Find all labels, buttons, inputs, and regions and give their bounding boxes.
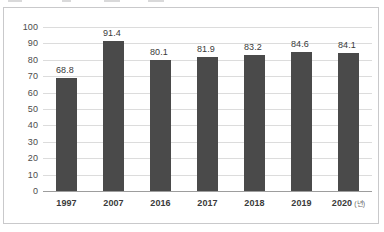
y-axis-tick-label: 20 [28, 153, 38, 163]
x-axis-tick-label: 2017 [184, 198, 231, 208]
x-axis-tick-label-text: 2019 [291, 198, 311, 208]
bar-slot: 84.1 [325, 27, 372, 191]
x-axis-tick-label-text: 2020 [332, 198, 352, 208]
bar-value-label: 84.1 [338, 40, 356, 50]
bar[interactable]: 83.2 [244, 55, 265, 191]
x-axis-tick-label: 1997 [43, 198, 90, 208]
x-axis-category-labels: 1997200720162017201820192020 (년) [43, 198, 372, 216]
bar[interactable]: 68.8 [56, 78, 77, 191]
x-axis-tick-label-text: 1997 [56, 198, 76, 208]
y-axis-tick-labels: 1009080706050403020100 [12, 27, 38, 191]
bar-value-label: 91.4 [103, 28, 121, 38]
y-axis-tick-label: 40 [28, 120, 38, 130]
x-axis-unit-suffix: (년) [352, 200, 365, 207]
x-axis-tick-label: 2016 [137, 198, 184, 208]
x-axis-tick-label-text: 2017 [197, 198, 217, 208]
y-axis-tick-label: 10 [28, 170, 38, 180]
chart-plot-wrapper: 1009080706050403020100 68.891.480.181.98… [4, 8, 378, 223]
bar-slot: 84.6 [278, 27, 325, 191]
bar-slot: 80.1 [137, 27, 184, 191]
bar-value-label: 80.1 [150, 47, 168, 57]
title-remnant-mark [104, 0, 120, 2]
bar-slot: 83.2 [231, 27, 278, 191]
x-axis-tick-label: 2007 [90, 198, 137, 208]
y-axis-tick-label: 30 [28, 137, 38, 147]
y-axis-tick-label: 50 [28, 104, 38, 114]
x-axis-tick-label-text: 2016 [150, 198, 170, 208]
y-axis-tick-label: 0 [33, 186, 38, 196]
bar[interactable]: 91.4 [103, 41, 124, 191]
bar-value-label: 81.9 [197, 44, 215, 54]
bar-series: 68.891.480.181.983.284.684.1 [43, 27, 372, 191]
bar[interactable]: 84.6 [291, 52, 312, 191]
x-axis-line [43, 191, 372, 192]
title-remnant-mark [62, 0, 71, 2]
x-axis-tick-label: 2018 [231, 198, 278, 208]
bar-value-label: 84.6 [291, 39, 309, 49]
bar-slot: 81.9 [184, 27, 231, 191]
x-axis-tick-label-text: 2018 [244, 198, 264, 208]
y-axis-tick-label: 60 [28, 88, 38, 98]
y-axis-tick-label: 100 [23, 22, 38, 32]
bar-slot: 68.8 [43, 27, 90, 191]
bar-value-label: 68.8 [56, 65, 74, 75]
bar-slot: 91.4 [90, 27, 137, 191]
plot-area: 68.891.480.181.983.284.684.1 [43, 27, 372, 191]
x-axis-tick-label-text: 2007 [103, 198, 123, 208]
cropped-title-remnant [0, 0, 384, 5]
title-remnant-mark [8, 0, 22, 2]
y-axis-tick-label: 80 [28, 55, 38, 65]
bar[interactable]: 80.1 [150, 60, 171, 191]
y-axis-tick-label: 90 [28, 38, 38, 48]
bar[interactable]: 81.9 [197, 57, 218, 191]
x-axis-tick-label: 2019 [278, 198, 325, 208]
bar-value-label: 83.2 [244, 42, 262, 52]
x-axis-tick-label: 2020 (년) [325, 198, 372, 208]
bar[interactable]: 84.1 [338, 53, 359, 191]
title-remnant-mark [148, 0, 164, 2]
chart-frame: 1009080706050403020100 68.891.480.181.98… [3, 7, 379, 224]
y-axis-tick-label: 70 [28, 71, 38, 81]
